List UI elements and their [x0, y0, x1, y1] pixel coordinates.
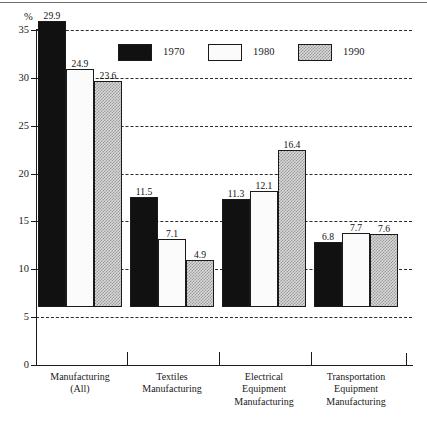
bar-1990-group2[interactable]: 4.9	[186, 260, 214, 307]
bar-1980-group2[interactable]: 7.1	[158, 239, 186, 307]
bar-1990-group4[interactable]: 7.6	[370, 234, 398, 307]
bar-1970-group3[interactable]: 11.3	[222, 199, 250, 307]
bar-1990-group3[interactable]: 16.4	[278, 150, 306, 307]
bar-value-label: 7.7	[350, 223, 362, 233]
bar-group-3: 11.312.116.4	[222, 0, 306, 307]
x-tick-3	[311, 352, 312, 365]
x-category-label-4: Transportation Equipment Manufacturing	[301, 371, 411, 408]
bar-1980-group4[interactable]: 7.7	[342, 233, 370, 307]
bar-1970-group2[interactable]: 11.5	[130, 197, 158, 307]
bar-value-label: 11.5	[136, 187, 152, 197]
bar-1990-group1[interactable]: 23.6	[94, 81, 122, 307]
bar-1970-group1[interactable]: 29.9	[38, 21, 66, 307]
bar-value-label: 12.1	[256, 181, 273, 191]
bar-value-label: 16.4	[284, 140, 301, 150]
bar-value-label: 4.9	[194, 250, 206, 260]
bar-1980-group1[interactable]: 24.9	[66, 69, 94, 307]
bar-value-label: 29.9	[44, 11, 61, 21]
bar-value-label: 24.9	[72, 59, 89, 69]
x-tick-2	[219, 352, 220, 365]
bar-group-1: 29.924.923.6	[38, 0, 122, 307]
bar-group-2: 11.57.14.9	[130, 0, 214, 307]
bars-layer: 29.924.923.611.57.14.911.312.116.46.87.7…	[0, 0, 427, 366]
bar-value-label: 7.6	[378, 224, 390, 234]
x-tick-1	[127, 352, 128, 365]
bar-value-label: 11.3	[228, 189, 244, 199]
bar-1980-group3[interactable]: 12.1	[250, 191, 278, 307]
bar-value-label: 6.8	[322, 232, 334, 242]
bar-1970-group4[interactable]: 6.8	[314, 242, 342, 307]
chart-figure: % 05101520253035 1970 1980 1990 29.924.9…	[0, 0, 427, 424]
plot-area: % 05101520253035 1970 1980 1990 29.924.9…	[0, 0, 427, 424]
bar-value-label: 7.1	[166, 229, 178, 239]
bar-value-label: 23.6	[100, 71, 117, 81]
bar-group-4: 6.87.77.6	[314, 0, 398, 307]
